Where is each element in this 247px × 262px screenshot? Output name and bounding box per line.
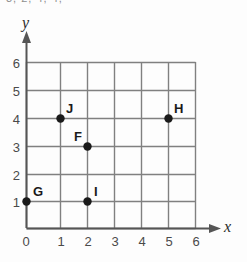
y-axis-label: y: [22, 14, 29, 32]
point-label-i: I: [94, 184, 98, 199]
x-axis-arrowhead: [209, 224, 221, 233]
plot-area: y x 6 5 4 3 2 1 0 1 2 3 4 5 6 J H F G I: [0, 0, 247, 262]
y-tick-6: 6: [6, 56, 20, 71]
x-tick-1: 1: [53, 234, 69, 249]
coordinate-grid-figure: 3, 2, 4, 4,: [0, 0, 247, 262]
point-label-j: J: [66, 101, 73, 116]
data-point-g: [22, 197, 30, 205]
x-tick-4: 4: [134, 234, 150, 249]
data-point-h: [164, 114, 172, 122]
x-axis: [27, 224, 222, 233]
vertical-gridlines: [27, 62, 196, 228]
y-tick-2: 2: [6, 168, 20, 183]
y-tick-1: 1: [6, 195, 20, 210]
y-axis-arrowhead: [22, 31, 31, 43]
grid-svg: [0, 0, 247, 262]
y-tick-3: 3: [6, 140, 20, 155]
data-point-i: [83, 197, 91, 205]
x-tick-6: 6: [188, 234, 204, 249]
x-tick-5: 5: [161, 234, 177, 249]
x-tick-0: 0: [18, 234, 34, 249]
horizontal-gridlines: [27, 63, 196, 229]
y-tick-4: 4: [6, 112, 20, 127]
point-label-g: G: [33, 184, 43, 199]
point-label-f: F: [74, 129, 82, 144]
data-point-f: [83, 142, 91, 150]
x-tick-3: 3: [107, 234, 123, 249]
y-tick-5: 5: [6, 84, 20, 99]
x-axis-label: x: [224, 218, 231, 236]
data-point-j: [56, 114, 64, 122]
point-label-h: H: [174, 101, 183, 116]
x-tick-2: 2: [80, 234, 96, 249]
